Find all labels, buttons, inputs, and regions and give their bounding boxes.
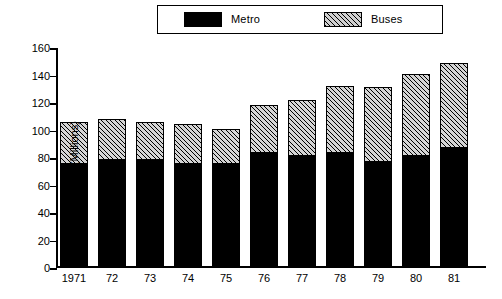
- x-axis-tick-label: 1971: [54, 272, 94, 284]
- bar-segment-metro: [174, 164, 202, 266]
- hatched-swatch-icon: [324, 12, 362, 27]
- x-axis-tick-label: 76: [244, 272, 284, 284]
- legend-entry-metro: Metro: [184, 6, 260, 33]
- legend-label-buses: Buses: [371, 14, 403, 25]
- legend-label-metro: Metro: [231, 14, 260, 25]
- bar-group: [56, 46, 486, 268]
- bar-segment-buses: [250, 105, 278, 153]
- stacked-bar: [440, 63, 468, 267]
- x-axis-tick-label: 79: [358, 272, 398, 284]
- chart-legend: Metro Buses: [157, 5, 443, 34]
- y-axis-title: Annual vehicle kms (Millions): [68, 92, 80, 292]
- x-axis-tick-label: 73: [130, 272, 170, 284]
- y-axis-tick-label: 0: [20, 263, 50, 274]
- stacked-bar: [402, 74, 430, 267]
- bar-segment-buses: [326, 86, 354, 153]
- chart-container: Metro Buses 160140120100806040200 Annual…: [0, 0, 502, 299]
- stacked-bar: [212, 129, 240, 267]
- bar-segment-metro: [440, 148, 468, 266]
- x-axis-tick-label: 75: [206, 272, 246, 284]
- stacked-bar: [174, 124, 202, 266]
- stacked-bar: [136, 122, 164, 266]
- bar-segment-metro: [250, 153, 278, 266]
- bar-segment-metro: [212, 164, 240, 266]
- y-axis-tick-label: 100: [20, 125, 50, 136]
- legend-entry-buses: Buses: [324, 6, 403, 33]
- bar-segment-buses: [136, 122, 164, 161]
- bar-segment-metro: [402, 156, 430, 266]
- bar-segment-buses: [364, 87, 392, 161]
- solid-black-swatch-icon: [184, 12, 222, 27]
- stacked-bar: [364, 87, 392, 266]
- bar-segment-buses: [98, 119, 126, 160]
- x-axis-tick-label: 72: [92, 272, 132, 284]
- stacked-bar: [288, 100, 316, 266]
- x-axis-tick-label: 77: [282, 272, 322, 284]
- y-axis-tick-label: 120: [20, 98, 50, 109]
- bar-segment-buses: [174, 124, 202, 164]
- bar-segment-metro: [326, 153, 354, 266]
- bar-segment-buses: [288, 100, 316, 156]
- bar-segment-metro: [136, 160, 164, 266]
- x-axis-tick-label: 80: [396, 272, 436, 284]
- plot-area: 160140120100806040200 Annual vehicle kms…: [56, 46, 486, 268]
- y-axis-tick-label: 160: [20, 43, 50, 54]
- y-axis-tick-label: 60: [20, 180, 50, 191]
- bar-segment-buses: [440, 63, 468, 148]
- bar-segment-metro: [288, 156, 316, 266]
- x-axis-tick-label: 74: [168, 272, 208, 284]
- stacked-bar: [98, 119, 126, 266]
- y-axis-tick-label: 80: [20, 153, 50, 164]
- y-axis-tick-label: 140: [20, 70, 50, 81]
- stacked-bar: [326, 86, 354, 266]
- x-axis-tick-label: 81: [434, 272, 474, 284]
- x-axis-labels: 197172737475767778798081: [56, 272, 486, 288]
- y-axis-tick-label: 40: [20, 208, 50, 219]
- bar-segment-buses: [212, 129, 240, 165]
- stacked-bar: [250, 105, 278, 266]
- bar-segment-buses: [402, 74, 430, 157]
- bar-segment-metro: [364, 162, 392, 267]
- bar-segment-metro: [98, 160, 126, 266]
- x-axis-tick-label: 78: [320, 272, 360, 284]
- y-axis-tick-label: 20: [20, 235, 50, 246]
- y-axis-tick: [50, 268, 57, 270]
